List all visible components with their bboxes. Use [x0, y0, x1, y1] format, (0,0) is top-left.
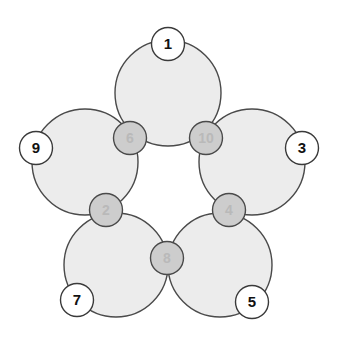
inner-node-6: 6	[114, 122, 147, 155]
inner-node-8: 8	[151, 242, 184, 275]
outer-node-label: 9	[32, 139, 40, 156]
outer-node-7: 7	[61, 284, 94, 317]
inner-node-label: 6	[126, 130, 134, 146]
outer-node-label: 1	[164, 35, 172, 52]
inner-node-label: 8	[163, 250, 171, 266]
inner-node-label: 2	[102, 202, 110, 218]
inner-node-4: 4	[213, 194, 246, 227]
big-circles-group	[32, 40, 305, 317]
outer-node-3: 3	[286, 132, 319, 165]
outer-node-label: 7	[73, 291, 81, 308]
flower-circle-diagram: 610248 19375	[0, 0, 339, 342]
inner-node-10: 10	[190, 122, 223, 155]
inner-node-2: 2	[90, 194, 123, 227]
inner-node-label: 10	[198, 130, 214, 146]
outer-node-9: 9	[20, 132, 53, 165]
outer-node-1: 1	[152, 28, 185, 61]
outer-node-label: 3	[298, 139, 306, 156]
outer-node-5: 5	[236, 286, 269, 319]
diagram-canvas: 610248 19375	[0, 0, 339, 342]
inner-node-label: 4	[225, 202, 233, 218]
outer-node-label: 5	[248, 293, 256, 310]
